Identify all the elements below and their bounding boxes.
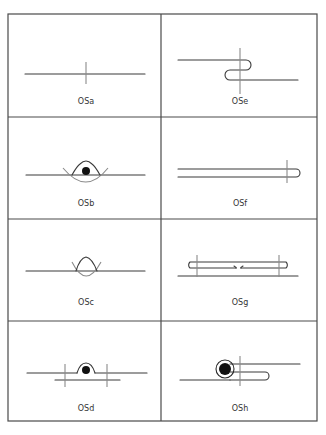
cell-osa: OSa <box>25 62 145 106</box>
cell-label: OSb <box>78 199 94 208</box>
filled-dot-icon <box>219 363 231 375</box>
cell-osh: OSh <box>180 356 300 413</box>
cell-osf: OSf <box>178 160 300 208</box>
grid-frame <box>8 14 317 421</box>
cell-label: OSe <box>232 97 248 106</box>
cell-osc: OSc <box>26 257 145 307</box>
cell-label: OSa <box>78 97 94 106</box>
cell-ose: OSe <box>178 48 298 106</box>
diagram-figure: OSa OSe OSb OSf OSc OSg <box>0 0 326 435</box>
cell-label: OSg <box>232 298 248 307</box>
filled-dot-icon <box>82 167 90 175</box>
cell-osd: OSd <box>27 363 147 413</box>
cell-label: OSc <box>78 298 94 307</box>
cell-osb: OSb <box>26 161 145 208</box>
cell-label: OSd <box>78 404 94 413</box>
cell-label: OSf <box>233 199 247 208</box>
cell-osg: OSg <box>178 255 298 307</box>
cell-label: OSh <box>232 404 248 413</box>
filled-dot-icon <box>82 366 90 374</box>
